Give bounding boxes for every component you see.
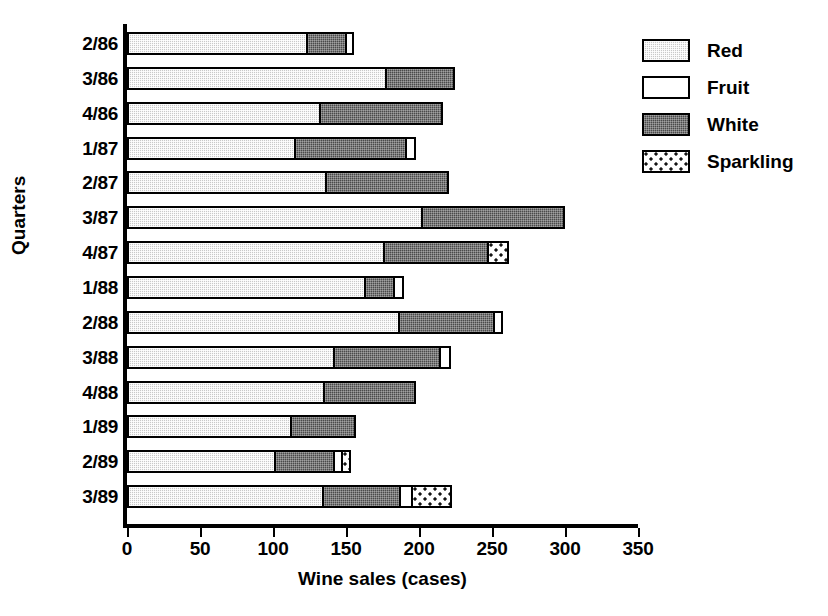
stacked-bar[interactable] <box>127 485 452 508</box>
bar-segment-red[interactable] <box>129 139 294 158</box>
x-tick-label: 100 <box>257 538 288 560</box>
x-tick <box>346 528 348 537</box>
stacked-bar[interactable] <box>127 171 449 194</box>
bar-segment-sparkling[interactable] <box>341 452 350 471</box>
legend-label: Red <box>707 40 743 62</box>
x-tick-label: 0 <box>122 538 132 560</box>
x-tick <box>419 528 421 537</box>
stacked-bar[interactable] <box>127 276 404 299</box>
legend-item[interactable]: Fruit <box>642 69 828 106</box>
x-tick <box>492 528 494 537</box>
bar-segment-white[interactable] <box>385 69 454 88</box>
category-label: 4/88 <box>82 382 118 404</box>
bar-segment-red[interactable] <box>129 208 421 227</box>
category-label: 3/88 <box>82 347 118 369</box>
bar-segment-white[interactable] <box>398 313 493 332</box>
wine-sales-chart: Quarters 2/863/864/861/872/873/874/871/8… <box>0 0 828 616</box>
bar-segment-white[interactable] <box>322 487 399 506</box>
bar-segment-red[interactable] <box>129 348 333 367</box>
bar-segment-white[interactable] <box>319 104 442 123</box>
stacked-bar[interactable] <box>127 241 509 264</box>
bar-segment-red[interactable] <box>129 383 323 402</box>
bar-segment-red[interactable] <box>129 243 383 262</box>
bar-segment-red[interactable] <box>129 278 364 297</box>
legend-swatch-sparkling <box>642 150 690 173</box>
bar-segment-fruit[interactable] <box>393 278 402 297</box>
bar-segment-red[interactable] <box>129 313 398 332</box>
bar-segment-white[interactable] <box>290 417 354 436</box>
bar-segment-sparkling[interactable] <box>411 487 450 506</box>
category-label: 3/87 <box>82 207 118 229</box>
category-label: 1/89 <box>82 416 118 438</box>
x-tick <box>273 528 275 537</box>
legend-label: Sparkling <box>707 151 794 173</box>
bar-segment-fruit[interactable] <box>493 313 502 332</box>
x-tick <box>200 528 202 537</box>
legend-swatch-fruit <box>642 76 690 99</box>
bar-segment-white[interactable] <box>323 383 414 402</box>
stacked-bar[interactable] <box>127 415 356 438</box>
y-axis-category-labels: 2/863/864/861/872/873/874/871/882/883/88… <box>0 0 118 616</box>
category-label: 3/89 <box>82 486 118 508</box>
bar-segment-red[interactable] <box>129 69 385 88</box>
bar-segment-red[interactable] <box>129 173 325 192</box>
bar-segment-white[interactable] <box>364 278 393 297</box>
bar-segment-white[interactable] <box>421 208 563 227</box>
bar-segment-white[interactable] <box>294 139 405 158</box>
category-label: 2/87 <box>82 172 118 194</box>
stacked-bar[interactable] <box>127 381 416 404</box>
x-tick <box>565 528 567 537</box>
x-tick-label: 350 <box>622 538 653 560</box>
stacked-bar[interactable] <box>127 137 416 160</box>
bar-segment-red[interactable] <box>129 487 322 506</box>
legend-item[interactable]: Sparkling <box>642 143 828 180</box>
x-axis-title: Wine sales (cases) <box>127 568 638 590</box>
plot-area <box>127 26 638 522</box>
stacked-bar[interactable] <box>127 206 565 229</box>
legend-label: Fruit <box>707 77 749 99</box>
legend-swatch-red <box>642 39 690 62</box>
bar-segment-sparkling[interactable] <box>487 243 507 262</box>
bar-segment-red[interactable] <box>129 417 290 436</box>
legend-label: White <box>707 114 759 136</box>
stacked-bar[interactable] <box>127 311 503 334</box>
bar-segment-fruit[interactable] <box>333 452 340 471</box>
bar-segment-fruit[interactable] <box>439 348 449 367</box>
category-label: 1/88 <box>82 277 118 299</box>
stacked-bar[interactable] <box>127 450 351 473</box>
category-label: 1/87 <box>82 138 118 160</box>
x-tick-label: 50 <box>190 538 211 560</box>
stacked-bar[interactable] <box>127 102 443 125</box>
bar-segment-white[interactable] <box>306 34 345 53</box>
stacked-bar[interactable] <box>127 67 455 90</box>
legend-item[interactable]: White <box>642 106 828 143</box>
bar-segment-red[interactable] <box>129 104 319 123</box>
x-tick-label: 200 <box>403 538 434 560</box>
x-tick <box>127 528 129 537</box>
bar-segment-white[interactable] <box>274 452 334 471</box>
category-label: 2/86 <box>82 33 118 55</box>
legend: RedFruitWhiteSparkling <box>642 32 828 180</box>
legend-swatch-white <box>642 113 690 136</box>
bar-segment-fruit[interactable] <box>399 487 411 506</box>
x-tick-label: 150 <box>330 538 361 560</box>
legend-item[interactable]: Red <box>642 32 828 69</box>
bar-segment-red[interactable] <box>129 34 306 53</box>
stacked-bar[interactable] <box>127 346 451 369</box>
bar-segment-white[interactable] <box>325 173 448 192</box>
x-tick-label: 300 <box>549 538 580 560</box>
category-label: 3/86 <box>82 68 118 90</box>
stacked-bar[interactable] <box>127 32 354 55</box>
bar-segment-fruit[interactable] <box>345 34 352 53</box>
category-label: 4/87 <box>82 242 118 264</box>
bar-segment-fruit[interactable] <box>405 139 414 158</box>
bar-segment-white[interactable] <box>383 243 487 262</box>
bar-segment-white[interactable] <box>333 348 438 367</box>
x-tick-label: 250 <box>476 538 507 560</box>
bar-segment-red[interactable] <box>129 452 274 471</box>
x-tick <box>638 528 640 537</box>
category-label: 2/89 <box>82 451 118 473</box>
category-label: 4/86 <box>82 103 118 125</box>
category-label: 2/88 <box>82 312 118 334</box>
